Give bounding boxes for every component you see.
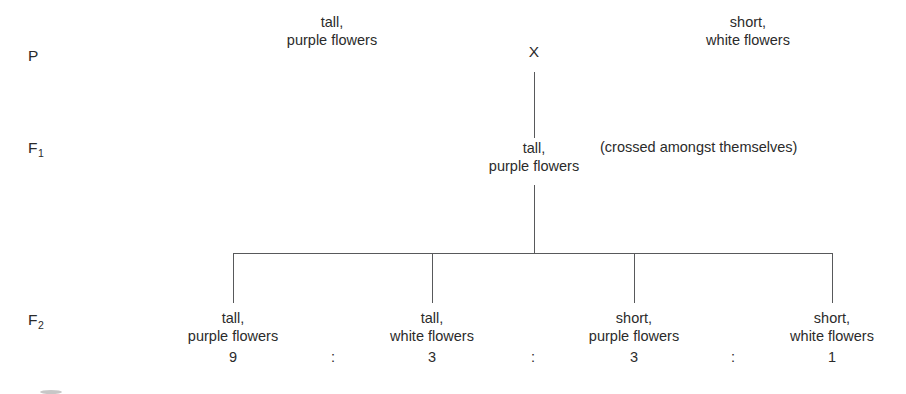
f1-selfing-note: (crossed amongst themselves) <box>600 140 797 155</box>
connector-p-to-f1 <box>534 72 535 138</box>
parent-left-trait-flower: purple flowers <box>287 32 377 50</box>
f2-ratio-value-2: 3 <box>428 350 436 365</box>
f2-offspring-2-trait-flower: white flowers <box>390 328 474 346</box>
generation-label-p-text: P <box>28 47 38 64</box>
parent-right-phenotype: short, white flowers <box>706 14 790 49</box>
f2-ratio-value-4: 1 <box>828 350 836 365</box>
f2-offspring-4-trait-height: short, <box>790 310 874 328</box>
f1-trait-flower: purple flowers <box>489 158 579 176</box>
parent-right-trait-flower: white flowers <box>706 32 790 50</box>
cross-symbol: X <box>529 44 539 60</box>
generation-label-f1-text: F <box>28 139 37 156</box>
genetics-cross-diagram: P F1 F2 tall, purple flowers X short, wh… <box>0 0 906 394</box>
generation-label-f2-text: F <box>28 311 37 328</box>
generation-label-p: P <box>28 48 38 64</box>
f2-offspring-2: tall, white flowers <box>390 310 474 345</box>
parent-right-trait-height: short, <box>706 14 790 32</box>
f2-branch-2 <box>432 253 433 303</box>
f2-branch-1 <box>233 253 234 303</box>
f1-trait-height: tall, <box>489 140 579 158</box>
f2-ratio-value-1: 9 <box>229 350 237 365</box>
f2-ratio-value-3: 3 <box>630 350 638 365</box>
scan-edge-artifact <box>40 390 62 394</box>
f2-bracket-horizontal <box>233 253 833 254</box>
generation-label-f1-subscript: 1 <box>38 147 44 159</box>
connector-f1-to-f2 <box>534 185 535 254</box>
f2-offspring-3: short, purple flowers <box>589 310 679 345</box>
f2-offspring-1-trait-height: tall, <box>188 310 278 328</box>
f2-ratio-separator-1: : <box>331 350 335 365</box>
parent-left-phenotype: tall, purple flowers <box>287 14 377 49</box>
generation-label-f2-subscript: 2 <box>38 319 44 331</box>
f2-offspring-2-trait-height: tall, <box>390 310 474 328</box>
generation-label-f1: F1 <box>28 140 43 156</box>
f1-offspring-phenotype: tall, purple flowers <box>489 140 579 175</box>
f2-offspring-4: short, white flowers <box>790 310 874 345</box>
f2-offspring-1: tall, purple flowers <box>188 310 278 345</box>
f2-branch-3 <box>634 253 635 303</box>
f2-branch-4 <box>832 253 833 303</box>
f2-offspring-1-trait-flower: purple flowers <box>188 328 278 346</box>
f2-ratio-separator-3: : <box>731 350 735 365</box>
f2-offspring-3-trait-height: short, <box>589 310 679 328</box>
f2-ratio-separator-2: : <box>531 350 535 365</box>
cross-symbol-text: X <box>529 43 539 60</box>
parent-left-trait-height: tall, <box>287 14 377 32</box>
f2-offspring-4-trait-flower: white flowers <box>790 328 874 346</box>
f2-offspring-3-trait-flower: purple flowers <box>589 328 679 346</box>
f1-selfing-note-text: (crossed amongst themselves) <box>600 139 797 155</box>
generation-label-f2: F2 <box>28 312 43 328</box>
